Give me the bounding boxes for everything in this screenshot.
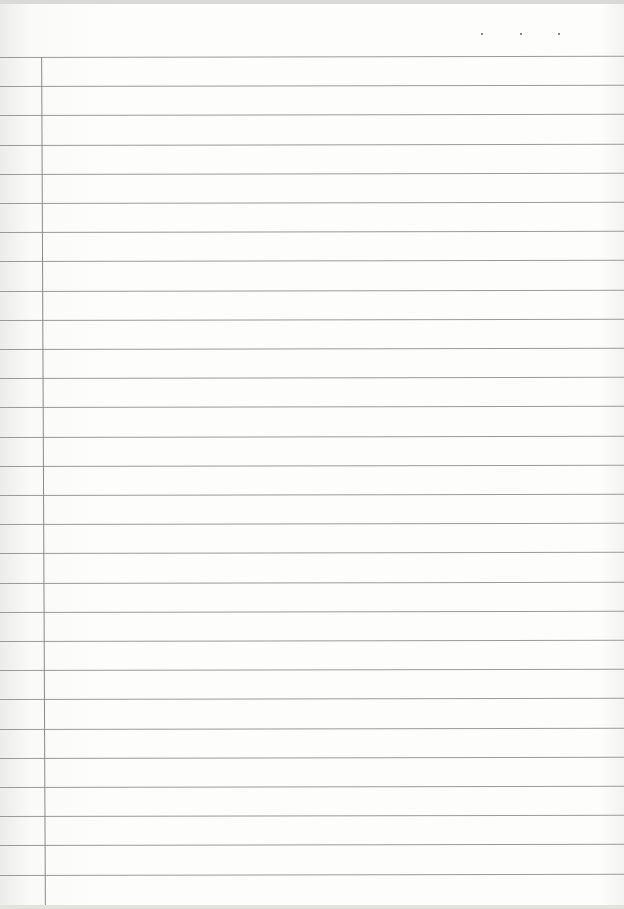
ruled-line — [0, 640, 624, 642]
ruled-line — [0, 318, 624, 320]
ruled-line — [0, 873, 624, 875]
notebook-page — [0, 0, 624, 909]
ruled-line — [0, 552, 624, 554]
ruled-line — [0, 610, 624, 612]
ruled-line — [0, 143, 624, 145]
page-bottom-edge — [0, 905, 624, 909]
ruled-line — [0, 56, 624, 58]
ruled-line — [0, 289, 624, 291]
ruled-line — [0, 231, 624, 233]
ruled-line — [0, 435, 624, 437]
margin-line — [41, 57, 46, 907]
ruled-line — [0, 669, 624, 671]
ruled-line — [0, 406, 624, 408]
ruled-line — [0, 844, 624, 846]
ruled-line — [0, 815, 624, 817]
ruled-line — [0, 114, 624, 116]
ruled-line — [0, 260, 624, 262]
ruled-line — [0, 494, 624, 496]
date-dot — [520, 33, 522, 35]
ruled-line — [0, 523, 624, 525]
ruled-line — [0, 727, 624, 729]
ruled-line — [0, 581, 624, 583]
ruled-line — [0, 756, 624, 758]
ruled-line — [0, 85, 624, 87]
ruled-line — [0, 348, 624, 350]
ruled-line — [0, 377, 624, 379]
date-dot — [481, 33, 483, 35]
page-top-edge — [0, 0, 624, 4]
date-dot — [558, 33, 560, 35]
ruled-line — [0, 786, 624, 788]
ruled-line — [0, 698, 624, 700]
ruled-line — [0, 172, 624, 174]
ruled-line — [0, 464, 624, 466]
ruled-line — [0, 202, 624, 204]
